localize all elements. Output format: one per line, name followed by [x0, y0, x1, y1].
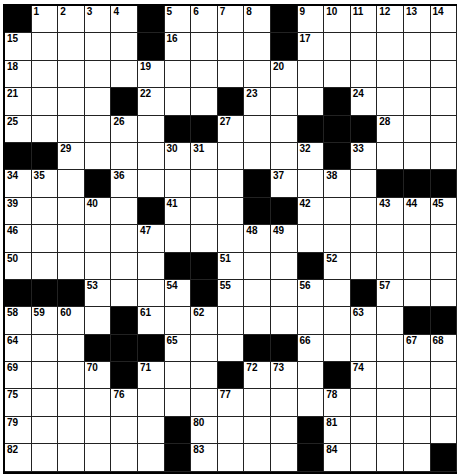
- grid-cell[interactable]: 55: [218, 280, 245, 307]
- grid-cell[interactable]: [351, 198, 378, 225]
- grid-cell[interactable]: [431, 362, 457, 389]
- grid-cell[interactable]: [111, 280, 138, 307]
- grid-cell[interactable]: [191, 389, 218, 416]
- grid-cell[interactable]: [298, 61, 325, 88]
- grid-cell[interactable]: 67: [404, 335, 431, 362]
- grid-cell[interactable]: 14: [431, 6, 457, 33]
- grid-cell[interactable]: [165, 362, 192, 389]
- grid-cell[interactable]: [271, 389, 298, 416]
- grid-cell[interactable]: [377, 389, 404, 416]
- grid-cell[interactable]: 50: [5, 253, 32, 280]
- grid-cell[interactable]: 33: [351, 143, 378, 170]
- grid-cell[interactable]: [271, 88, 298, 115]
- grid-cell[interactable]: [244, 116, 271, 143]
- grid-cell[interactable]: 6: [191, 6, 218, 33]
- grid-cell[interactable]: [111, 143, 138, 170]
- grid-cell[interactable]: [404, 225, 431, 252]
- grid-cell[interactable]: 61: [138, 307, 165, 334]
- grid-cell[interactable]: 66: [298, 335, 325, 362]
- grid-cell[interactable]: [324, 33, 351, 60]
- grid-cell[interactable]: 70: [85, 362, 112, 389]
- grid-cell[interactable]: [271, 116, 298, 143]
- grid-cell[interactable]: [165, 170, 192, 197]
- grid-cell[interactable]: [138, 280, 165, 307]
- grid-cell[interactable]: [191, 61, 218, 88]
- grid-cell[interactable]: [218, 198, 245, 225]
- grid-cell[interactable]: [218, 417, 245, 444]
- grid-cell[interactable]: 12: [377, 6, 404, 33]
- grid-cell[interactable]: 58: [5, 307, 32, 334]
- grid-cell[interactable]: [271, 280, 298, 307]
- grid-cell[interactable]: 23: [244, 88, 271, 115]
- grid-cell[interactable]: 31: [191, 143, 218, 170]
- grid-cell[interactable]: 17: [298, 33, 325, 60]
- grid-cell[interactable]: [324, 335, 351, 362]
- grid-cell[interactable]: [32, 198, 59, 225]
- grid-cell[interactable]: 68: [431, 335, 457, 362]
- grid-cell[interactable]: [218, 61, 245, 88]
- grid-cell[interactable]: [32, 88, 59, 115]
- grid-cell[interactable]: [218, 335, 245, 362]
- grid-cell[interactable]: [324, 225, 351, 252]
- grid-cell[interactable]: 8: [244, 6, 271, 33]
- grid-cell[interactable]: [218, 143, 245, 170]
- grid-cell[interactable]: 84: [324, 444, 351, 471]
- grid-cell[interactable]: [165, 225, 192, 252]
- grid-cell[interactable]: [85, 143, 112, 170]
- grid-cell[interactable]: 5: [165, 6, 192, 33]
- grid-cell[interactable]: [218, 170, 245, 197]
- grid-cell[interactable]: [58, 225, 85, 252]
- grid-cell[interactable]: [271, 417, 298, 444]
- grid-cell[interactable]: [377, 225, 404, 252]
- grid-cell[interactable]: [58, 170, 85, 197]
- grid-cell[interactable]: 62: [191, 307, 218, 334]
- grid-cell[interactable]: [111, 61, 138, 88]
- grid-cell[interactable]: 72: [244, 362, 271, 389]
- grid-cell[interactable]: [404, 444, 431, 471]
- grid-cell[interactable]: [351, 33, 378, 60]
- grid-cell[interactable]: [298, 88, 325, 115]
- grid-cell[interactable]: [244, 280, 271, 307]
- grid-cell[interactable]: [58, 444, 85, 471]
- grid-cell[interactable]: 82: [5, 444, 32, 471]
- grid-cell[interactable]: [32, 61, 59, 88]
- grid-cell[interactable]: [32, 225, 59, 252]
- grid-cell[interactable]: 56: [298, 280, 325, 307]
- grid-cell[interactable]: [404, 61, 431, 88]
- grid-cell[interactable]: 45: [431, 198, 457, 225]
- grid-cell[interactable]: [431, 417, 457, 444]
- grid-cell[interactable]: 2: [58, 6, 85, 33]
- grid-cell[interactable]: [351, 225, 378, 252]
- grid-cell[interactable]: [431, 88, 457, 115]
- grid-cell[interactable]: [377, 362, 404, 389]
- grid-cell[interactable]: [138, 253, 165, 280]
- grid-cell[interactable]: [351, 61, 378, 88]
- grid-cell[interactable]: 43: [377, 198, 404, 225]
- grid-cell[interactable]: [32, 33, 59, 60]
- grid-cell[interactable]: [324, 307, 351, 334]
- grid-cell[interactable]: 42: [298, 198, 325, 225]
- grid-cell[interactable]: [324, 61, 351, 88]
- grid-cell[interactable]: [138, 444, 165, 471]
- grid-cell[interactable]: [298, 362, 325, 389]
- grid-cell[interactable]: [218, 444, 245, 471]
- grid-cell[interactable]: [85, 417, 112, 444]
- grid-cell[interactable]: [351, 335, 378, 362]
- grid-cell[interactable]: 30: [165, 143, 192, 170]
- grid-cell[interactable]: [351, 170, 378, 197]
- grid-cell[interactable]: 81: [324, 417, 351, 444]
- grid-cell[interactable]: [244, 417, 271, 444]
- grid-cell[interactable]: 53: [85, 280, 112, 307]
- grid-cell[interactable]: [58, 335, 85, 362]
- grid-cell[interactable]: 49: [271, 225, 298, 252]
- grid-cell[interactable]: 1: [32, 6, 59, 33]
- grid-cell[interactable]: [191, 33, 218, 60]
- grid-cell[interactable]: [85, 444, 112, 471]
- grid-cell[interactable]: [165, 389, 192, 416]
- grid-cell[interactable]: 24: [351, 88, 378, 115]
- grid-cell[interactable]: [244, 444, 271, 471]
- grid-cell[interactable]: [138, 116, 165, 143]
- grid-cell[interactable]: [58, 88, 85, 115]
- grid-cell[interactable]: [58, 198, 85, 225]
- grid-cell[interactable]: [377, 33, 404, 60]
